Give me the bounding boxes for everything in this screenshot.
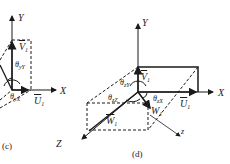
panel-c-caption: (c)	[2, 141, 12, 151]
direction-angle-diagram: Y X V1 U1 θyY θyX (c) Z Y X z V1 U1 W1 W…	[0, 0, 230, 164]
x-axis-label-d: X	[218, 88, 224, 98]
x-axis-label-c: X	[60, 86, 66, 96]
theta-zY-label: θzY	[120, 79, 130, 89]
v1-label-c: V1	[19, 42, 28, 55]
w1-direction-d	[138, 92, 150, 108]
y-axis-label-c: Y	[18, 13, 24, 23]
y-axis-label-d: Y	[142, 18, 148, 28]
z-small-axis-label-d: z	[181, 128, 184, 136]
theta-zX-label: θzX	[153, 95, 163, 105]
u1-label-d: U1	[180, 99, 190, 112]
theta-zZ-label: θzZ	[108, 94, 118, 104]
z-axis-label: Z	[56, 139, 62, 149]
diagram-lines	[0, 0, 230, 164]
theta-yY-label: θyY	[15, 61, 25, 71]
v1-label-d: V1	[141, 72, 150, 85]
w1-vector-label-d: W1	[106, 116, 117, 129]
panel-c-graphics	[0, 16, 56, 108]
w1-label-d: W1	[151, 106, 162, 119]
panel-d-caption: (d)	[132, 149, 143, 159]
u1-label-c: U1	[34, 96, 44, 109]
theta-yX-label: θyX	[10, 93, 20, 103]
